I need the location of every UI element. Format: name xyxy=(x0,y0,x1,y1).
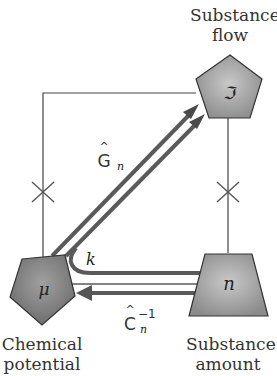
svg-text:G: G xyxy=(97,151,110,171)
c-hat-label: ^ C −1 n xyxy=(124,303,156,336)
g-hat-label: ^ G n xyxy=(97,140,124,173)
chemical-potential-symbol: μ xyxy=(38,279,49,299)
substance-flow-node[interactable]: ℑ xyxy=(196,55,262,118)
chemical-potential-caption: Chemical potential xyxy=(0,334,84,374)
chemical-potential-caption-line2: potential xyxy=(0,354,84,374)
svg-text:n: n xyxy=(140,323,147,336)
substance-amount-node[interactable]: n xyxy=(189,254,268,316)
substance-flow-caption: Substance flow xyxy=(190,5,270,45)
substance-amount-caption-line1: Substance xyxy=(186,334,270,354)
diagram-canvas: ℑ μ n ^ G n k ^ C −1 n xyxy=(0,0,277,376)
svg-text:n: n xyxy=(117,160,124,173)
substance-amount-symbol: n xyxy=(223,273,235,294)
g-hat-arrow xyxy=(52,114,196,256)
substance-flow-caption-line2: flow xyxy=(190,25,270,45)
k-label: k xyxy=(86,250,96,269)
svg-text:C: C xyxy=(124,314,136,334)
substance-amount-caption: Substance amount xyxy=(186,334,270,374)
chemical-potential-node[interactable]: μ xyxy=(10,255,75,325)
chemical-potential-caption-line1: Chemical xyxy=(0,334,84,354)
svg-text:−1: −1 xyxy=(138,307,156,321)
substance-amount-caption-line2: amount xyxy=(186,354,270,374)
substance-flow-caption-line1: Substance xyxy=(190,5,270,25)
c-hat-arrowhead xyxy=(76,285,92,301)
